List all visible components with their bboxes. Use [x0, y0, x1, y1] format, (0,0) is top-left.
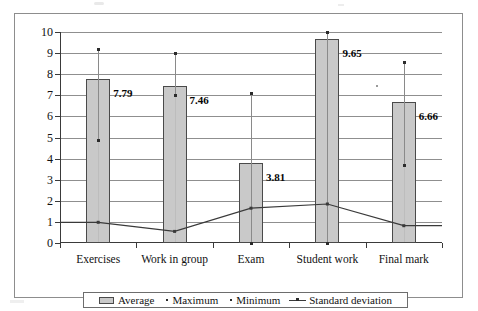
scan-artifact: [10, 300, 24, 303]
legend-label-minimum: Minimum: [236, 294, 280, 306]
bar-swatch-icon: [99, 297, 114, 304]
y-axis-tick-label: 1: [27, 216, 53, 228]
legend-item-average: Average: [99, 294, 154, 306]
sd-point-marker: [173, 230, 176, 233]
bar-value-label: 9.65: [342, 48, 361, 59]
sd-point-marker: [402, 224, 405, 227]
legend-label-standard-deviation: Standard deviation: [309, 294, 392, 306]
sd-point-marker: [97, 221, 100, 224]
sd-point-marker: [250, 207, 253, 210]
chart-legend: Average Maximum Minimum Standard deviati…: [83, 292, 408, 308]
legend-label-average: Average: [118, 294, 154, 306]
y-axis-tick-label: 2: [27, 195, 53, 207]
y-axis-tick-label: 8: [27, 68, 53, 80]
bar-value-label: 6.66: [419, 111, 438, 122]
bar-value-label: 7.79: [113, 88, 132, 99]
y-axis-tick-label: 6: [27, 110, 53, 122]
x-axis-tick-mark: [289, 243, 290, 248]
plot-area: 109876543210 7.797.463.819.656.66: [60, 32, 442, 243]
y-axis-tick-label: 4: [27, 153, 53, 165]
x-axis-tick-mark: [366, 243, 367, 248]
legend-item-minimum: Minimum: [230, 294, 280, 306]
x-axis-tick-mark: [442, 243, 443, 248]
legend-label-maximum: Maximum: [172, 294, 218, 306]
dot-marker-icon: [166, 299, 168, 301]
x-axis-tick-mark: [136, 243, 137, 248]
x-axis-tick-mark: [60, 243, 61, 248]
sd-point-marker: [326, 203, 329, 206]
bar-value-label: 7.46: [190, 95, 209, 106]
chart-frame: 109876543210 7.797.463.819.656.66 Exerci…: [14, 13, 463, 298]
y-axis-tick-label: 0: [27, 237, 53, 249]
x-axis-category-label: Final mark: [354, 254, 454, 266]
line-marker-icon: [289, 297, 306, 304]
y-axis-tick-label: 9: [27, 47, 53, 59]
scan-artifact: [338, 4, 344, 6]
bar-value-label: 3.81: [266, 172, 285, 183]
y-axis-tick-label: 7: [27, 89, 53, 101]
dot-marker-icon: [230, 299, 232, 301]
y-axis-tick-label: 10: [27, 26, 53, 38]
y-axis-tick-label: 5: [27, 132, 53, 144]
y-axis-tick-label: 3: [27, 174, 53, 186]
scan-artifact: [94, 2, 104, 5]
legend-item-maximum: Maximum: [166, 294, 218, 306]
standard-deviation-line: [60, 32, 442, 243]
legend-item-standard-deviation: Standard deviation: [289, 294, 392, 306]
x-axis-tick-mark: [213, 243, 214, 248]
